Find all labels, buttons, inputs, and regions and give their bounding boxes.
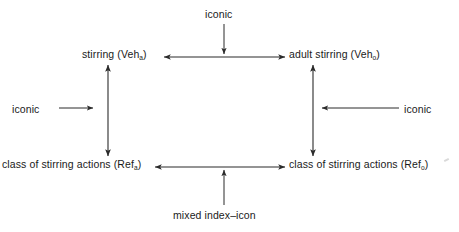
annotation-label-bottom-mixed-index-icon: mixed index–icon: [173, 209, 256, 221]
node-label-class-stirring-actions-ref-a: class of stirring actions (Refa): [2, 158, 141, 172]
node-text-main: stirring (Veh: [82, 48, 139, 60]
node-text-main: class of stirring actions (Ref: [2, 158, 134, 170]
node-label-class-stirring-actions-ref-o: class of stirring actions (Refo): [289, 158, 428, 172]
annotation-label-top-iconic: iconic: [205, 8, 232, 20]
diagram-edges-layer: [0, 0, 459, 232]
node-text-tail: ): [376, 48, 380, 60]
annotation-label-right-iconic: iconic: [404, 103, 431, 115]
node-subscript: a: [139, 54, 143, 61]
node-label-adult-stirring-veh-o: adult stirring (Veho): [289, 48, 380, 62]
node-text-tail: ): [143, 48, 147, 60]
node-text-main: adult stirring (Veh: [289, 48, 373, 60]
annotation-label-left-iconic: iconic: [12, 103, 39, 115]
node-text-main: class of stirring actions (Ref: [289, 158, 421, 170]
node-subscript: o: [421, 164, 425, 171]
node-subscript: a: [134, 164, 138, 171]
node-label-stirring-veh-a: stirring (Veha): [82, 48, 147, 62]
node-text-tail: ): [138, 158, 142, 170]
node-subscript: o: [373, 54, 377, 61]
diagram-canvas: stirring (Veha) adult stirring (Veho) cl…: [0, 0, 459, 232]
node-text-tail: ): [425, 158, 429, 170]
